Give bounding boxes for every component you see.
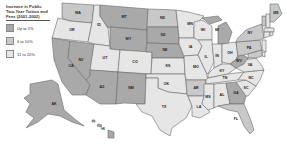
legend-title: Increase in Public Two-Year Tuition and … xyxy=(6,4,50,21)
legend-label: 6 to 10% xyxy=(17,39,33,44)
state-label-KS: KS xyxy=(166,64,172,68)
state-label-AZ: AZ xyxy=(100,85,106,89)
legend-label: 11 to 20% xyxy=(17,52,35,57)
state-label-VA: VA xyxy=(248,63,253,67)
legend-item-6-to-10: 6 to 10% xyxy=(6,37,50,45)
state-label-MT: MT xyxy=(121,15,127,19)
state-label-ID: ID xyxy=(97,23,101,27)
state-NH xyxy=(266,14,270,28)
state-label-SC: SC xyxy=(244,86,249,90)
state-label-SD: SD xyxy=(161,33,166,37)
state-label-AK: AK xyxy=(51,102,57,106)
state-label-KY: KY xyxy=(220,69,226,73)
state-label-OR: OR xyxy=(69,28,75,32)
legend-swatch xyxy=(6,50,14,58)
state-label-GA: GA xyxy=(233,91,239,95)
legend-item-11-to-20: 11 to 20% xyxy=(6,50,50,58)
state-label-NM: NM xyxy=(128,86,134,90)
state-DE xyxy=(262,52,265,57)
state-label-CA: CA xyxy=(68,64,74,68)
legend-swatch xyxy=(6,24,14,32)
state-label-WA: WA xyxy=(75,11,81,15)
state-label-WY: WY xyxy=(126,37,132,41)
state-label-PA: PA xyxy=(247,46,252,50)
state-label-HI: HI xyxy=(101,127,105,131)
state-label-OH: OH xyxy=(227,51,233,55)
state-label-ME: ME xyxy=(273,11,279,15)
legend-swatch xyxy=(6,37,14,45)
state-label-NC: NC xyxy=(248,76,254,80)
state-label-MS: MS xyxy=(205,95,211,99)
state-NJ xyxy=(262,40,266,52)
state-label-MI: MI xyxy=(215,28,219,32)
state-VT xyxy=(262,16,266,26)
state-label-WI: WI xyxy=(201,28,205,32)
state-RI xyxy=(270,32,273,36)
state-label-NV: NV xyxy=(79,58,85,62)
state-label-UT: UT xyxy=(103,56,109,60)
state-label-WV: WV xyxy=(236,59,242,63)
state-label-ND: ND xyxy=(160,16,166,20)
legend-item-up-to-5: Up to 5% xyxy=(6,24,50,32)
state-label-MO: MO xyxy=(193,65,199,69)
state-label-AL: AL xyxy=(220,93,226,97)
state-CT xyxy=(264,32,270,38)
state-label-TX: TX xyxy=(162,105,167,109)
state-label-TN: TN xyxy=(223,76,228,80)
legend-label: Up to 5% xyxy=(17,26,33,31)
state-label-IN: IN xyxy=(215,54,219,58)
state-label-AR: AR xyxy=(193,86,199,90)
legend: Increase in Public Two-Year Tuition and … xyxy=(6,4,50,63)
state-label-CO: CO xyxy=(132,60,138,64)
state-label-NY: NY xyxy=(248,31,254,35)
state-label-FL: FL xyxy=(234,117,239,121)
state-MA xyxy=(264,28,274,32)
state-label-MN: MN xyxy=(187,22,193,26)
state-label-LA: LA xyxy=(197,105,202,109)
state-label-NE: NE xyxy=(163,48,169,52)
state-label-IA: IA xyxy=(189,45,193,49)
state-label-OK: OK xyxy=(164,82,170,86)
